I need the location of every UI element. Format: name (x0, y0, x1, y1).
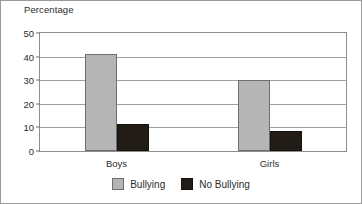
y-axis-tick-label: 50 (6, 28, 40, 39)
y-axis-tick-mark (36, 103, 40, 104)
y-axis-tick-label: 20 (6, 98, 40, 109)
legend-swatch-icon (112, 178, 124, 190)
y-axis-tick-mark (36, 127, 40, 128)
bar (85, 54, 117, 151)
bar (117, 124, 149, 151)
bar-chart-figure: Percentage 01020304050 BoysGirls Bullyin… (0, 0, 362, 204)
y-axis-tick-mark (36, 33, 40, 34)
y-axis-tick-mark (36, 80, 40, 81)
legend-swatch-icon (181, 178, 193, 190)
y-axis-tick-mark (36, 151, 40, 152)
y-axis-tick-label: 10 (6, 122, 40, 133)
plot-area: 01020304050 BoysGirls (39, 32, 347, 152)
legend-label: Bullying (130, 179, 165, 190)
y-axis-title: Percentage (24, 4, 74, 15)
legend-entry: No Bullying (181, 178, 250, 190)
legend-entry: Bullying (112, 178, 165, 190)
y-axis-tick-label: 0 (6, 146, 40, 157)
y-axis-tick-label: 30 (6, 75, 40, 86)
bar (238, 80, 270, 151)
x-axis-category-label: Girls (260, 158, 280, 169)
y-axis-tick-label: 40 (6, 51, 40, 62)
chart-legend: BullyingNo Bullying (1, 178, 361, 190)
y-axis-tick-mark (36, 56, 40, 57)
x-axis-category-label: Boys (106, 158, 127, 169)
bar (270, 131, 302, 151)
legend-label: No Bullying (199, 179, 250, 190)
